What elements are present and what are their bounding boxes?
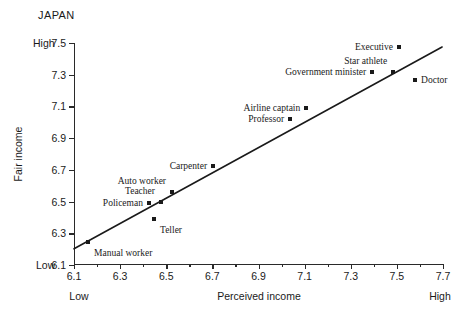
regression-line [0,0,470,313]
chart-page: JAPAN High Low Fair income Low High Perc… [0,0,470,313]
